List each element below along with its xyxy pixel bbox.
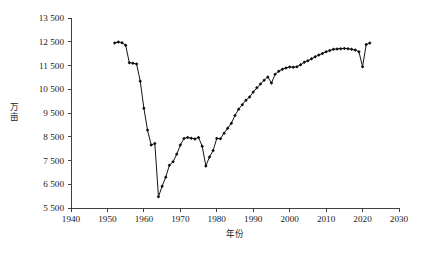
x-axis-title: 年份 — [226, 228, 244, 239]
data-point-marker — [204, 164, 208, 168]
data-point-marker — [200, 145, 204, 149]
data-point-marker — [361, 65, 365, 69]
data-point-marker — [142, 107, 146, 111]
y-axis-title: 万亩 — [10, 102, 19, 121]
line-chart-canvas: 5 5006 5007 5008 5009 50010 50011 50012 … — [0, 0, 431, 264]
data-point-marker — [317, 53, 321, 57]
y-tick-label: 11 500 — [39, 61, 64, 71]
x-tick-label: 1990 — [244, 214, 263, 224]
data-point-marker — [281, 68, 285, 72]
y-tick-label: 6 500 — [43, 179, 64, 189]
data-point-marker — [160, 184, 164, 188]
data-point-marker — [292, 65, 296, 69]
y-tick-label: 10 500 — [39, 84, 65, 94]
y-tick-label: 7 500 — [43, 156, 64, 166]
x-tick-label: 2000 — [280, 214, 299, 224]
data-point-marker — [149, 143, 153, 147]
data-point-marker — [328, 49, 332, 53]
data-point-marker — [215, 137, 219, 141]
data-point-marker — [368, 41, 372, 45]
data-point-markers — [113, 40, 372, 198]
y-tick-label: 5 500 — [43, 203, 64, 213]
data-point-marker — [113, 41, 117, 45]
data-point-marker — [128, 61, 132, 65]
data-point-marker — [186, 136, 190, 140]
data-point-marker — [175, 153, 179, 157]
data-point-marker — [321, 52, 325, 56]
data-point-marker — [190, 136, 194, 140]
data-point-marker — [157, 195, 161, 199]
chart-figure: 5 5006 5007 5008 5009 50010 50011 50012 … — [0, 0, 431, 264]
data-point-marker — [332, 48, 336, 52]
data-point-marker — [357, 50, 361, 54]
data-point-marker — [117, 40, 121, 44]
data-point-marker — [346, 47, 350, 51]
data-point-marker — [146, 128, 150, 132]
y-tick-label: 8 500 — [43, 132, 64, 142]
data-point-marker — [364, 43, 368, 47]
data-point-marker — [339, 47, 343, 51]
y-tick-label: 13 500 — [39, 13, 65, 23]
data-point-marker — [153, 142, 157, 146]
data-point-marker — [197, 136, 201, 140]
data-point-marker — [350, 48, 354, 52]
data-point-marker — [131, 61, 135, 65]
x-axis-ticks: 1940195019601970198019902000201020202030 — [62, 208, 409, 224]
x-tick-label: 1970 — [171, 214, 190, 224]
x-tick-label: 2020 — [353, 214, 372, 224]
data-point-marker — [306, 59, 310, 63]
x-tick-label: 1940 — [62, 214, 81, 224]
data-point-marker — [288, 65, 292, 69]
x-tick-label: 1960 — [135, 214, 154, 224]
data-point-marker — [284, 66, 288, 70]
data-series-line — [115, 42, 370, 197]
data-point-marker — [193, 137, 197, 141]
data-point-marker — [295, 65, 299, 69]
data-point-marker — [335, 47, 339, 51]
data-point-marker — [135, 62, 139, 65]
y-axis-ticks: 5 5006 5007 5008 5009 50010 50011 50012 … — [39, 13, 71, 213]
data-point-marker — [354, 48, 358, 52]
y-tick-label: 12 500 — [39, 37, 65, 47]
x-tick-label: 1980 — [208, 214, 227, 224]
x-tick-label: 1950 — [98, 214, 117, 224]
data-point-marker — [164, 175, 168, 179]
data-point-marker — [343, 47, 347, 51]
data-point-marker — [324, 50, 328, 54]
x-tick-label: 2010 — [317, 214, 336, 224]
y-tick-label: 9 500 — [43, 108, 64, 118]
x-tick-label: 2030 — [390, 214, 409, 224]
data-point-marker — [138, 79, 142, 83]
